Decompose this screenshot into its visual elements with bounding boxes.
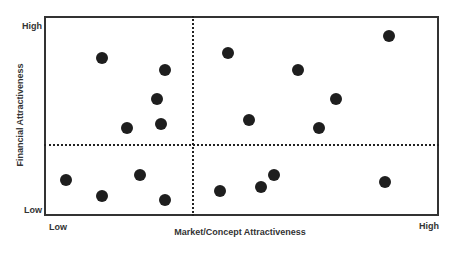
- x-tick-low: Low: [49, 222, 67, 232]
- y-tick-high: High: [22, 21, 42, 31]
- data-point: [222, 47, 234, 59]
- data-point: [96, 190, 108, 202]
- data-point: [255, 181, 267, 193]
- horizontal-quadrant-divider: [44, 144, 439, 146]
- x-tick-high: High: [419, 221, 439, 231]
- vertical-quadrant-divider: [192, 16, 194, 216]
- data-point: [330, 93, 342, 105]
- data-point: [268, 169, 280, 181]
- x-axis-label: Market/Concept Attractiveness: [140, 227, 340, 237]
- data-point: [121, 122, 133, 134]
- data-point: [379, 176, 391, 188]
- data-point: [243, 114, 255, 126]
- data-point: [313, 122, 325, 134]
- data-point: [383, 30, 395, 42]
- y-tick-low: Low: [24, 205, 42, 215]
- data-point: [60, 174, 72, 186]
- data-point: [159, 64, 171, 76]
- data-point: [134, 169, 146, 181]
- data-point: [155, 118, 167, 130]
- data-point: [159, 194, 171, 206]
- data-point: [151, 93, 163, 105]
- data-point: [96, 52, 108, 64]
- data-point: [292, 64, 304, 76]
- y-axis-label: Financial Attractiveness: [15, 45, 25, 185]
